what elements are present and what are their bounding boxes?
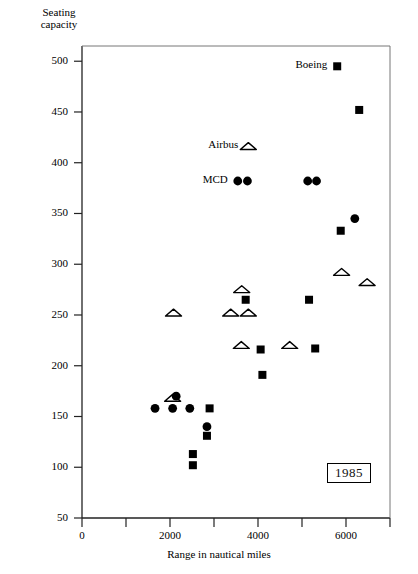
data-point-filled-circle (168, 404, 177, 413)
data-point-filled-circle (172, 392, 181, 401)
x-tick-label: 4000 (238, 529, 278, 541)
y-tick-label: 450 (38, 105, 68, 117)
series-label-mcd: MCD (142, 173, 228, 185)
data-markers (151, 62, 375, 469)
scatter-chart: Seating capacity Range in nautical miles… (0, 0, 418, 574)
y-tick-label: 500 (38, 54, 68, 66)
x-tick-label: 2000 (150, 529, 190, 541)
data-point-filled-square (333, 62, 341, 70)
data-point-open-triangle (282, 342, 298, 349)
data-point-open-triangle (240, 143, 256, 150)
data-point-filled-circle (243, 177, 252, 186)
data-point-filled-square (189, 450, 197, 458)
data-point-filled-circle (233, 177, 242, 186)
data-point-open-triangle (334, 269, 350, 276)
y-tick-label: 400 (38, 156, 68, 168)
data-point-filled-square (337, 227, 345, 235)
data-point-filled-square (206, 404, 214, 412)
y-tick-label: 200 (38, 359, 68, 371)
series-label-airbus: Airbus (152, 138, 238, 150)
x-axis-ticks (82, 518, 390, 527)
x-tick-label: 6000 (326, 529, 366, 541)
data-point-open-triangle (223, 309, 239, 316)
data-point-filled-circle (185, 404, 194, 413)
data-point-filled-square (311, 344, 319, 352)
data-point-open-triangle (359, 279, 375, 286)
data-point-filled-circle (350, 214, 359, 223)
y-tick-label: 100 (38, 460, 68, 472)
y-tick-label: 150 (38, 409, 68, 421)
data-point-filled-circle (203, 422, 212, 431)
plot-area (0, 0, 418, 574)
x-tick-label: 0 (62, 529, 102, 541)
data-point-filled-square (189, 461, 197, 469)
data-point-filled-square (203, 432, 211, 440)
series-label-boeing: Boeing (241, 58, 327, 70)
data-point-filled-square (257, 346, 265, 354)
year-annotation-badge: 1985 (327, 463, 371, 483)
data-point-filled-square (242, 296, 250, 304)
data-point-open-triangle (233, 342, 249, 349)
data-point-filled-circle (151, 404, 160, 413)
y-tick-label: 50 (38, 511, 68, 523)
data-point-open-triangle (234, 286, 250, 293)
y-tick-label: 300 (38, 257, 68, 269)
data-point-open-triangle (240, 309, 256, 316)
axis-lines (82, 46, 390, 518)
data-point-filled-circle (312, 177, 321, 186)
y-tick-label: 350 (38, 206, 68, 218)
data-point-filled-square (305, 296, 313, 304)
y-tick-label: 250 (38, 308, 68, 320)
data-point-filled-circle (303, 177, 312, 186)
y-axis-ticks (74, 61, 82, 518)
data-point-filled-square (355, 106, 363, 114)
data-point-open-triangle (166, 309, 182, 316)
data-point-filled-square (258, 371, 266, 379)
